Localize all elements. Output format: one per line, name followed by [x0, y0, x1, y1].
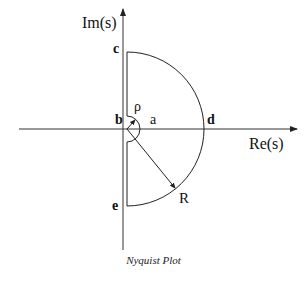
- point-c-label: c: [113, 41, 119, 56]
- nyquist-diagram: Im(s) Re(s) c b ρ a d e R: [0, 0, 307, 281]
- point-b-label: b: [115, 112, 123, 127]
- R-label: R: [179, 190, 189, 206]
- rho-label: ρ: [134, 99, 141, 114]
- point-e-label: e: [112, 198, 118, 213]
- figure-caption: Nyquist Plot: [0, 254, 307, 266]
- x-axis-label: Re(s): [249, 135, 284, 153]
- rho-radius-arrow: [127, 120, 135, 129]
- y-axis-label: Im(s): [82, 14, 117, 32]
- R-radius-arrow: [127, 129, 175, 188]
- point-a-label: a: [150, 112, 157, 127]
- point-d-label: d: [207, 112, 215, 127]
